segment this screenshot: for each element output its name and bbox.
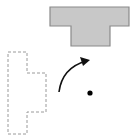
center-of-rotation — [87, 90, 92, 95]
original-figure-dashed — [8, 52, 46, 134]
rotation-diagram — [0, 0, 138, 138]
rotation-arrow — [59, 61, 86, 92]
arrowhead-icon — [80, 57, 90, 66]
rotated-figure — [50, 7, 129, 46]
